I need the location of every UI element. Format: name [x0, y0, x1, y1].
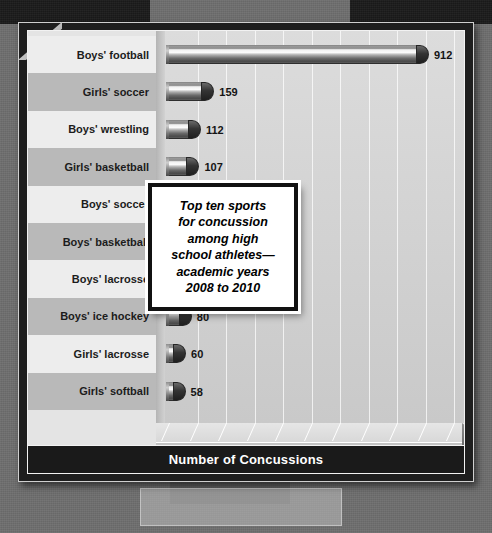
callout-line: academic years [176, 265, 269, 279]
category-label-5: Boys' basketball [28, 223, 156, 260]
gridline-600 [340, 31, 341, 423]
bar-cap [186, 157, 199, 176]
bar-body [169, 82, 205, 101]
axis-tick-0 [161, 423, 170, 441]
bar-3 [169, 157, 199, 176]
x-axis-title: Number of Concussions [169, 452, 323, 467]
bar-0 [169, 45, 429, 64]
category-label-3: Girls' basketball [28, 148, 156, 185]
bar-2 [169, 120, 201, 139]
callout-text: Top ten sportsfor concussionamong highsc… [171, 198, 275, 297]
bar-value-label-7: 80 [197, 311, 209, 323]
axis-floor-right-edge [462, 423, 465, 446]
bar-cap [416, 45, 429, 64]
axis-floor [156, 423, 465, 446]
category-label-text: Boys' ice hockey [60, 310, 149, 322]
axis-tick-700 [360, 423, 369, 441]
category-label-text: Boys' lacrosse [72, 273, 149, 285]
axis-tick-500 [303, 423, 312, 441]
callout-line: 2008 to 2010 [186, 281, 260, 295]
category-label-text: Boys' soccer [81, 198, 149, 210]
callout-line: school athletes— [171, 248, 275, 262]
category-label-0: Boys' football [28, 36, 156, 73]
category-label-column: Boys' footballGirls' soccerBoys' wrestli… [28, 31, 157, 445]
chart-canvas: Boys' footballGirls' soccerBoys' wrestli… [27, 30, 465, 446]
bar-value-label-1: 159 [219, 86, 237, 98]
category-label-text: Girls' softball [79, 385, 149, 397]
axis-tick-600 [332, 423, 341, 441]
bar-8 [169, 344, 186, 363]
bar-value-label-3: 107 [204, 161, 222, 173]
bar-value-label-8: 60 [191, 348, 203, 360]
callout-line: for concussion [178, 215, 268, 229]
bar-value-label-0: 912 [434, 49, 452, 61]
axis-tick-1000 [446, 423, 455, 441]
bar-value-label-9: 58 [191, 386, 203, 398]
category-label-1: Girls' soccer [28, 73, 156, 110]
bar-value-label-2: 112 [206, 124, 224, 136]
callout-line: Top ten sports [180, 199, 266, 213]
category-label-8: Girls' lacrosse [28, 335, 156, 372]
bar-1 [169, 82, 214, 101]
category-label-2: Boys' wrestling [28, 111, 156, 148]
axis-tick-800 [389, 423, 398, 441]
axis-tick-400 [275, 423, 284, 441]
category-label-text: Boys' basketball [63, 236, 149, 248]
base-plate [140, 488, 342, 526]
category-label-text: Girls' soccer [83, 86, 149, 98]
bar-cap [173, 344, 186, 363]
callout-line: among high [188, 232, 259, 246]
gridline-700 [369, 31, 370, 423]
callout-box: Top ten sportsfor concussionamong highsc… [148, 183, 298, 311]
category-label-text: Girls' basketball [64, 161, 149, 173]
axis-tick-300 [246, 423, 255, 441]
bar-cap [201, 82, 214, 101]
x-axis-title-band: Number of Concussions [27, 446, 465, 474]
category-label-9: Girls' softball [28, 373, 156, 410]
category-label-text: Boys' football [77, 49, 149, 61]
category-label-text: Boys' wrestling [68, 123, 149, 135]
bar-body [169, 45, 420, 64]
gridline-900 [426, 31, 427, 423]
gridline-1000 [454, 31, 455, 423]
category-label-text: Girls' lacrosse [74, 348, 149, 360]
category-label-6: Boys' lacrosse [28, 260, 156, 297]
bar-9 [169, 382, 186, 401]
category-label-7: Boys' ice hockey [28, 298, 156, 335]
gridline-800 [397, 31, 398, 423]
gridline-500 [312, 31, 313, 423]
axis-tick-200 [218, 423, 227, 441]
axis-tick-900 [417, 423, 426, 441]
axis-tick-100 [189, 423, 198, 441]
category-label-4: Boys' soccer [28, 186, 156, 223]
bar-cap [173, 382, 186, 401]
bar-cap [188, 120, 201, 139]
